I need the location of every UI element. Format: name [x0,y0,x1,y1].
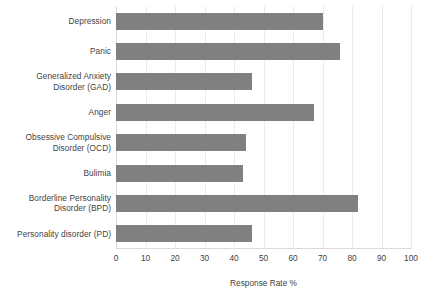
category-label-line: Borderline Personality [0,193,111,204]
category-label: Personality disorder (PD) [0,229,111,240]
x-axis-tick-labels: 0102030405060708090100 [116,252,411,266]
category-label: Generalized AnxietyDisorder (GAD) [0,71,111,92]
category-label-line: Anger [0,107,111,118]
category-label: Obsessive CompulsiveDisorder (OCD) [0,132,111,153]
bar [116,225,252,242]
y-axis-category-labels: DepressionPanicGeneralized AnxietyDisord… [0,6,111,249]
bar-row [116,225,411,242]
x-tick-label-60: 60 [288,252,297,264]
x-tick-label-20: 20 [170,252,179,264]
bar [116,43,340,60]
category-label: Panic [0,46,111,57]
bar-series [116,6,411,249]
bar-row [116,73,411,90]
bar-row [116,195,411,212]
bar-row [116,104,411,121]
x-tick-label-0: 0 [114,252,119,264]
bar-row [116,43,411,60]
category-label-line: Disorder (OCD) [0,143,111,154]
bar [116,13,323,30]
category-label: Depression [0,16,111,27]
bar [116,104,314,121]
bar [116,195,358,212]
x-tick-label-50: 50 [259,252,268,264]
bar-row [116,165,411,182]
x-tick-label-70: 70 [318,252,327,264]
x-tick-label-80: 80 [347,252,356,264]
category-label: Anger [0,107,111,118]
x-tick-label-100: 100 [404,252,418,264]
bar-row [116,13,411,30]
x-tick-label-10: 10 [141,252,150,264]
category-label-line: Personality disorder (PD) [0,229,111,240]
category-label-line: Panic [0,46,111,57]
category-label-line: Disorder (GAD) [0,82,111,93]
category-label-line: Depression [0,16,111,27]
bar [116,73,252,90]
bar [116,165,243,182]
x-axis-title: Response Rate % [116,277,411,289]
x-tick-label-30: 30 [200,252,209,264]
gridline-100 [411,6,412,249]
category-label: Bulimia [0,168,111,179]
bar-row [116,134,411,151]
category-label-line: Generalized Anxiety [0,71,111,82]
x-tick-label-40: 40 [229,252,238,264]
bar [116,134,246,151]
bar-chart: DepressionPanicGeneralized AnxietyDisord… [0,0,423,301]
x-tick-label-90: 90 [377,252,386,264]
category-label-line: Disorder (BPD) [0,203,111,214]
category-label-line: Bulimia [0,168,111,179]
category-label: Borderline PersonalityDisorder (BPD) [0,193,111,214]
category-label-line: Obsessive Compulsive [0,132,111,143]
plot-area [116,6,411,249]
